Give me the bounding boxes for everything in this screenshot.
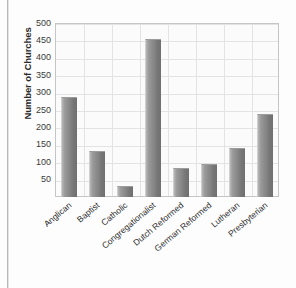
bar	[89, 151, 105, 197]
y-axis-tick-label: 450	[23, 36, 51, 45]
y-axis-tick-label: 500	[23, 19, 51, 28]
bar	[229, 148, 245, 197]
y-axis-tick-label: 300	[23, 88, 51, 97]
bar	[61, 97, 77, 197]
chart-page: Number of Churches 500450400350300250200…	[0, 0, 296, 288]
bar	[201, 164, 217, 197]
bar	[173, 168, 189, 197]
y-axis-tick-label: 250	[23, 106, 51, 115]
y-axis-tick-label: 200	[23, 123, 51, 132]
x-axis-category-labels: AnglicanBaptistCatholicCongregationalist…	[55, 197, 279, 287]
x-axis-category-label: Baptist	[75, 200, 102, 225]
y-axis-tick-label: 100	[23, 158, 51, 167]
bar	[145, 39, 161, 197]
y-axis-tick-labels: 50045040035030025020015010050	[22, 0, 51, 288]
bars-layer	[55, 23, 279, 197]
y-axis-tick-label: 150	[23, 140, 51, 149]
y-axis-tick-label: 400	[23, 53, 51, 62]
y-axis-tick-label: 50	[23, 175, 51, 184]
bar	[117, 186, 133, 197]
y-axis-tick-label: 350	[23, 71, 51, 80]
page-edge-rule-shadow	[8, 0, 9, 288]
bar	[257, 114, 273, 197]
